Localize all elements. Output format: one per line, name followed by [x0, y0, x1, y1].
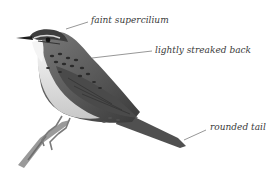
leader-back — [92, 51, 152, 58]
annotation-lightly-streaked-back: lightly streaked back — [155, 46, 251, 55]
bird-annotation-figure: faint supercilium lightly streaked back … — [0, 0, 270, 178]
bird-beak — [16, 36, 33, 40]
bird-illustration — [0, 0, 270, 178]
annotation-rounded-tail: rounded tail — [210, 123, 266, 132]
leader-supercilium — [66, 22, 88, 29]
leader-tail — [184, 130, 206, 140]
annotation-faint-supercilium: faint supercilium — [91, 16, 169, 25]
